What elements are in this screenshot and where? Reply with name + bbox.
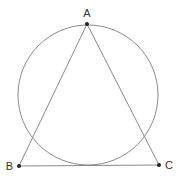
segment-ab [19,24,87,166]
circle [18,25,158,165]
segment-bc [19,165,159,166]
point-c [157,163,161,167]
point-b [17,164,21,168]
point-a [85,22,89,26]
geometry-diagram: A B C [0,0,182,179]
segment-ac [87,24,159,165]
label-a: A [83,7,91,19]
label-c: C [165,159,173,171]
label-b: B [6,160,13,172]
